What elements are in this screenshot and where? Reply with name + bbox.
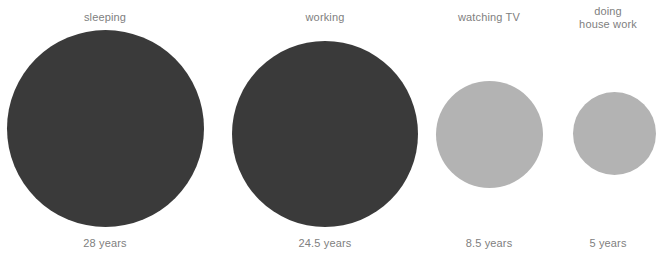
bubble-circle-watching-tv [436, 81, 543, 188]
bubble-label-doing-house-work: doing house work [565, 5, 651, 31]
bubble-label-sleeping: sleeping [0, 11, 210, 24]
bubble-value-working: 24.5 years [222, 237, 428, 250]
bubble-group-watching-tv: watching TV 8.5 years [430, 0, 548, 268]
bubble-value-sleeping: 28 years [0, 237, 210, 250]
bubble-label-working: working [222, 11, 428, 24]
bubble-group-working: working 24.5 years [222, 0, 428, 268]
bubble-label-watching-tv: watching TV [430, 11, 548, 24]
bubble-circle-working [232, 41, 418, 227]
bubble-value-watching-tv: 8.5 years [430, 237, 548, 250]
bubble-circle-sleeping [7, 30, 204, 227]
bubble-value-doing-house-work: 5 years [565, 237, 651, 250]
bubble-group-sleeping: sleeping 28 years [0, 0, 210, 268]
bubble-circle-doing-house-work [573, 92, 656, 175]
bubble-group-doing-house-work: doing house work 5 years [565, 0, 651, 268]
